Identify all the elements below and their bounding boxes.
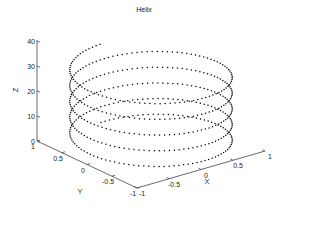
helix-point — [210, 58, 212, 60]
helix-point — [110, 129, 112, 131]
helix-point — [196, 146, 198, 148]
helix-point — [133, 149, 135, 151]
helix-point — [215, 156, 217, 158]
helix-point — [69, 118, 71, 120]
helix-point — [143, 165, 145, 167]
helix-point — [229, 133, 231, 135]
helix-point — [76, 83, 78, 85]
helix-point — [134, 117, 136, 119]
helix-point — [220, 153, 222, 155]
helix-point — [72, 61, 74, 63]
helix-point — [164, 134, 166, 136]
helix-point — [139, 102, 141, 104]
helix-point — [112, 71, 114, 73]
helix-point — [230, 88, 232, 90]
helix-point — [97, 110, 99, 112]
helix-point — [214, 75, 216, 77]
helix-point — [69, 133, 71, 135]
helix-point — [162, 66, 164, 68]
helix-point — [71, 109, 73, 111]
helix-point — [199, 71, 201, 73]
helix-point — [158, 114, 160, 116]
helix-point — [231, 79, 233, 81]
helix-point — [207, 89, 209, 91]
helix-point — [220, 138, 222, 140]
helix-point — [109, 160, 111, 162]
helix-point — [104, 89, 106, 91]
helix-point — [84, 88, 86, 90]
helix-point — [153, 166, 155, 168]
helix-point — [157, 66, 159, 68]
helix-point — [231, 121, 233, 123]
helix-point — [132, 99, 134, 101]
helix-point — [186, 84, 188, 86]
helix-point — [88, 48, 90, 50]
helix-point — [141, 51, 143, 53]
helix-point — [148, 150, 150, 152]
helix-point — [190, 53, 192, 55]
tick-mark — [199, 168, 202, 169]
helix-point — [77, 71, 79, 73]
helix-point — [69, 100, 71, 102]
helix-point — [92, 109, 94, 111]
helix-point — [159, 150, 161, 152]
helix-point — [179, 133, 181, 135]
helix-point — [136, 67, 138, 69]
helix-point — [104, 74, 106, 76]
helix-point — [87, 121, 89, 123]
tick-mark — [62, 152, 65, 153]
helix-point — [230, 130, 232, 132]
helix-point — [195, 70, 197, 72]
helix-point — [214, 91, 216, 93]
helix-point — [187, 163, 189, 165]
helix-point — [139, 134, 141, 136]
helix-point — [231, 75, 233, 77]
helix-point — [230, 135, 232, 137]
helix-point — [167, 98, 169, 100]
helix-point — [174, 149, 176, 151]
helix-point — [193, 115, 195, 117]
helix-point — [69, 67, 71, 69]
helix-point — [222, 64, 224, 66]
helix-series — [69, 44, 233, 168]
helix-point — [70, 96, 72, 98]
helix-point — [231, 140, 233, 142]
helix-point — [92, 46, 94, 48]
helix-point — [109, 119, 111, 121]
tick-mark — [167, 177, 170, 178]
helix-point — [147, 114, 149, 116]
tick-mark — [87, 164, 90, 165]
helix-point — [69, 69, 71, 71]
helix-point — [168, 165, 170, 167]
helix-point — [149, 134, 151, 136]
helix-point — [169, 134, 171, 136]
helix-point — [157, 51, 159, 53]
helix-point — [119, 147, 121, 149]
helix-point — [214, 107, 216, 109]
helix-point — [229, 86, 231, 88]
helix-point — [183, 148, 185, 150]
helix-point — [137, 99, 139, 101]
helix-point — [152, 98, 154, 100]
helix-point — [225, 87, 227, 89]
helix-point — [70, 75, 72, 77]
helix-point — [200, 161, 202, 163]
helix-point — [193, 100, 195, 102]
helix-point — [113, 87, 115, 89]
helix-point — [163, 114, 165, 116]
helix-point — [151, 51, 153, 53]
helix-point — [85, 65, 87, 67]
helix-point — [174, 118, 176, 120]
helix-point — [78, 147, 80, 149]
helix-point — [221, 122, 223, 124]
helix-point — [224, 65, 226, 67]
helix-point — [99, 59, 101, 61]
x-tick-label: 0.5 — [233, 162, 243, 169]
helix-point — [70, 122, 72, 124]
helix-point — [231, 109, 233, 111]
helix-point — [231, 89, 233, 91]
helix-point — [139, 118, 141, 120]
helix-point — [138, 149, 140, 151]
helix-point — [231, 123, 233, 125]
helix-point — [143, 150, 145, 152]
